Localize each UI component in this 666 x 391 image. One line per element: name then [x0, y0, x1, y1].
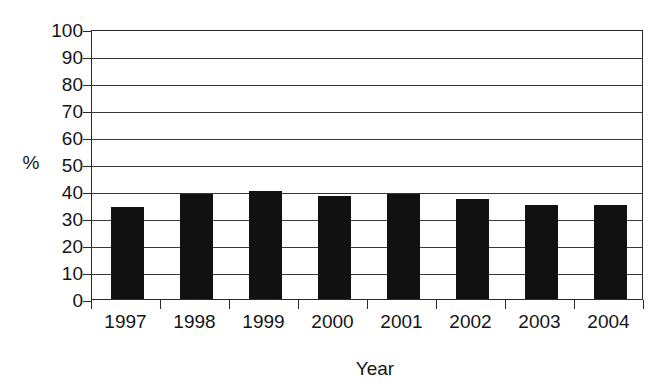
- gridline: [92, 220, 642, 221]
- gridline: [92, 274, 642, 275]
- y-axis-tick: [83, 112, 92, 113]
- x-axis-tick: [643, 300, 644, 309]
- y-axis-tick: [83, 193, 92, 194]
- x-axis-tick-label: 1998: [160, 311, 230, 333]
- x-axis-tick: [367, 300, 368, 309]
- bar-chart: % Year 010203040506070809010019971998199…: [0, 0, 666, 391]
- x-axis-tick: [436, 300, 437, 309]
- y-axis-tick: [83, 247, 92, 248]
- x-axis-tick-label: 1997: [91, 311, 161, 333]
- x-axis-tick: [298, 300, 299, 309]
- gridline: [92, 193, 642, 194]
- y-axis-tick-label: 50: [39, 156, 83, 175]
- x-axis-tick: [160, 300, 161, 309]
- y-axis-tick-label: 70: [39, 102, 83, 121]
- x-axis-tick-label: 2002: [436, 311, 506, 333]
- y-axis-tick-label: 0: [39, 291, 83, 310]
- x-axis-tick-label: 2001: [367, 311, 437, 333]
- gridline: [92, 85, 642, 86]
- x-axis-tick: [505, 300, 506, 309]
- gridline: [92, 58, 642, 59]
- y-axis-tick: [83, 31, 92, 32]
- x-axis-tick-label: 2000: [298, 311, 368, 333]
- y-axis-tick: [83, 58, 92, 59]
- bar: [180, 194, 213, 299]
- x-axis-tick: [574, 300, 575, 309]
- bar: [387, 194, 420, 299]
- y-axis-tick-label: 40: [39, 183, 83, 202]
- gridline: [92, 112, 642, 113]
- y-axis-tick-label: 20: [39, 237, 83, 256]
- y-axis-tick: [83, 139, 92, 140]
- y-axis-tick: [83, 274, 92, 275]
- bar: [594, 205, 627, 300]
- x-axis-tick-label: 1999: [229, 311, 299, 333]
- x-axis-tick: [91, 300, 92, 309]
- gridline: [92, 139, 642, 140]
- bar: [456, 199, 489, 299]
- y-axis-tick-label: 100: [39, 21, 83, 40]
- y-axis-tick: [83, 85, 92, 86]
- bar: [318, 196, 351, 299]
- bar: [111, 207, 144, 299]
- gridline: [92, 166, 642, 167]
- x-axis-tick-label: 2003: [505, 311, 575, 333]
- y-axis-tick-label: 30: [39, 210, 83, 229]
- y-axis-tick-label: 60: [39, 129, 83, 148]
- x-axis-label: Year: [310, 358, 440, 380]
- y-axis-tick: [83, 166, 92, 167]
- y-axis-tick: [83, 220, 92, 221]
- bar: [525, 205, 558, 300]
- plot-area: [91, 30, 643, 300]
- bar: [249, 191, 282, 299]
- gridline: [92, 247, 642, 248]
- x-axis-tick-label: 2004: [574, 311, 644, 333]
- y-axis-tick-label: 90: [39, 48, 83, 67]
- y-axis-tick-label: 80: [39, 75, 83, 94]
- x-axis-tick: [229, 300, 230, 309]
- y-axis-tick-label: 10: [39, 264, 83, 283]
